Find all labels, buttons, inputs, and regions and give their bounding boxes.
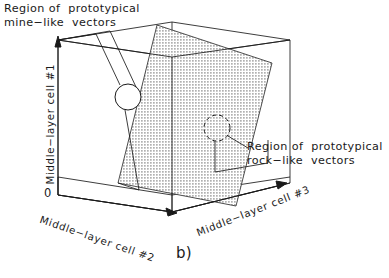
solid-circle-mine-region <box>115 84 141 110</box>
axis-origin-label: 0 <box>44 186 51 200</box>
axis-1-arrowhead <box>55 36 61 47</box>
decision-boundary-3d-figure <box>0 0 389 278</box>
axis-3-arrowhead <box>276 181 287 189</box>
rock-region-label-line2: rock−like vectors <box>247 154 355 167</box>
rock-region-label-line1: Region of prototypical <box>247 140 383 153</box>
mine-region-label-line2: mine−like vectors <box>4 16 116 29</box>
mine-leader-line-right <box>110 31 136 87</box>
mine-region-label-line1: Region of prototypical <box>4 2 140 15</box>
mine-region-label: Region of prototypicalmine−like vectors <box>4 2 140 29</box>
mine-leader-line-left <box>96 34 120 85</box>
axis-2-line <box>58 195 172 212</box>
figure-caption: b) <box>176 244 192 262</box>
mine-leader-line-to-top-edge2 <box>58 34 96 40</box>
axis-2-arrowhead <box>166 208 177 216</box>
axis-label-cell-1: Middle−layer cell #1 <box>45 59 57 189</box>
rock-region-label: Region of prototypicalrock−like vectors <box>247 140 383 167</box>
